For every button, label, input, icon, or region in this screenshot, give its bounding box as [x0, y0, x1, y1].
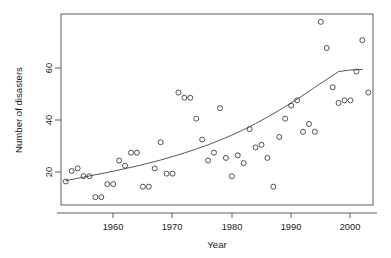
- y-axis-title: Number of disasters: [13, 67, 24, 153]
- data-point: [134, 150, 139, 155]
- data-point: [306, 121, 311, 126]
- data-point: [265, 155, 270, 160]
- x-tick-label-1980: 1980: [222, 222, 243, 232]
- data-point: [223, 155, 228, 160]
- data-point: [188, 95, 193, 100]
- fitted-trend-curve: [66, 69, 363, 180]
- data-point: [312, 129, 317, 134]
- data-point: [289, 103, 294, 108]
- data-point: [283, 116, 288, 121]
- x-tick-label-1970: 1970: [162, 222, 183, 232]
- data-point: [217, 106, 222, 111]
- data-point: [200, 137, 205, 142]
- y-tick-label-60: 60: [44, 63, 54, 73]
- data-point: [75, 166, 80, 171]
- data-point: [301, 129, 306, 134]
- data-point: [140, 184, 145, 189]
- data-point: [360, 38, 365, 43]
- data-point: [206, 158, 211, 163]
- chart-figure: 60 40 20 1960 1970 1980 1990 2000 Year N…: [0, 0, 391, 258]
- data-point: [123, 163, 128, 168]
- data-point: [152, 166, 157, 171]
- data-point: [342, 98, 347, 103]
- data-point: [212, 150, 217, 155]
- data-point: [176, 90, 181, 95]
- x-tick-label-2000: 2000: [340, 222, 361, 232]
- data-point: [99, 195, 104, 200]
- data-point: [93, 195, 98, 200]
- data-point: [170, 171, 175, 176]
- plot-frame: [61, 14, 373, 205]
- data-point: [235, 153, 240, 158]
- x-axis: 1960 1970 1980 1990 2000: [57, 213, 377, 232]
- data-point: [81, 174, 86, 179]
- data-point: [158, 140, 163, 145]
- x-tick-label-1960: 1960: [103, 222, 124, 232]
- data-point: [164, 171, 169, 176]
- data-point: [271, 184, 276, 189]
- data-point: [247, 127, 252, 132]
- data-point: [277, 134, 282, 139]
- y-tick-label-40: 40: [44, 115, 54, 125]
- data-points-group: [63, 19, 371, 199]
- data-point: [330, 85, 335, 90]
- data-point: [253, 145, 258, 150]
- data-point: [324, 46, 329, 51]
- data-point: [259, 142, 264, 147]
- data-point: [111, 182, 116, 187]
- data-point: [318, 19, 323, 24]
- data-point: [146, 184, 151, 189]
- data-point: [366, 90, 371, 95]
- y-axis: 60 40 20: [44, 63, 61, 177]
- data-point: [117, 158, 122, 163]
- data-point: [348, 98, 353, 103]
- x-axis-title: Year: [207, 239, 227, 250]
- y-tick-label-20: 20: [44, 167, 54, 177]
- data-point: [241, 161, 246, 166]
- data-point: [128, 150, 133, 155]
- data-point: [194, 116, 199, 121]
- data-point: [69, 168, 74, 173]
- data-point: [105, 182, 110, 187]
- x-tick-label-1990: 1990: [281, 222, 302, 232]
- scatter-plot: 60 40 20 1960 1970 1980 1990 2000 Year N…: [0, 0, 391, 258]
- data-point: [63, 179, 68, 184]
- data-point: [336, 100, 341, 105]
- data-point: [182, 95, 187, 100]
- data-point: [229, 174, 234, 179]
